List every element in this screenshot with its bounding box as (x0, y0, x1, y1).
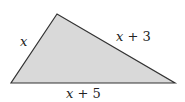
right-side-expr: + 3 (123, 29, 150, 44)
triangle (11, 14, 175, 83)
left-side-var: x (20, 34, 27, 49)
bottom-side-label: x + 5 (66, 87, 101, 100)
right-side-label: x + 3 (116, 30, 151, 43)
left-side-label: x (20, 35, 27, 48)
bottom-side-expr: + 5 (73, 86, 100, 101)
